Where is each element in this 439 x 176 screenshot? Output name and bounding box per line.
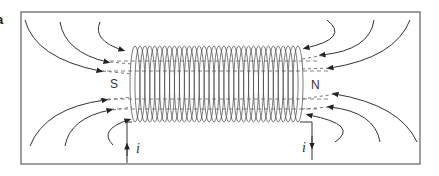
solenoid-coil — [130, 46, 303, 122]
current-out-label: i — [302, 140, 306, 156]
frame-border — [21, 12, 420, 164]
current-in-label: i — [136, 141, 140, 157]
right-field-lines — [306, 20, 417, 142]
solenoid-field-diagram — [0, 0, 439, 176]
current-leads — [127, 122, 312, 163]
internal-field-lines — [100, 61, 330, 109]
north-pole-label: N — [311, 78, 320, 92]
south-pole-label: S — [110, 77, 118, 91]
